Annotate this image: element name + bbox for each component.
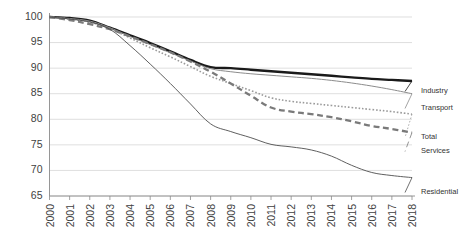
x-axis-tick-label: 2008 <box>205 204 217 228</box>
legend-leader-residential <box>405 178 412 193</box>
y-axis-tick-label: 75 <box>31 138 43 150</box>
x-axis-tick-label: 2017 <box>386 204 398 228</box>
legend-label-total: Total <box>421 132 437 141</box>
legend-leader-transport <box>405 94 412 109</box>
y-axis-tick-label: 100 <box>25 10 43 22</box>
x-axis-tick-label: 2001 <box>64 204 76 228</box>
x-axis-tick-label: 2018 <box>406 204 418 228</box>
series-line-total <box>50 17 413 114</box>
series-line-services <box>50 17 413 133</box>
y-axis-tick-label: 95 <box>31 35 43 47</box>
y-axis-tick-label: 65 <box>31 189 43 201</box>
y-axis-tick-label: 90 <box>31 61 43 73</box>
legend-label-residential: Residential <box>421 187 458 196</box>
series-line-residential <box>50 17 413 178</box>
legend-leader-industry <box>405 81 412 92</box>
y-axis-tick-label: 80 <box>31 112 43 124</box>
legend-label-transport: Transport <box>421 103 454 112</box>
legend-group: IndustryTransportTotalServicesResidentia… <box>421 86 458 196</box>
x-axis-tick-label: 2016 <box>366 204 378 228</box>
y-axis-tick-label: 85 <box>31 86 43 98</box>
line-chart: 65707580859095100 2000200120022003200420… <box>0 0 466 252</box>
legend-leader-services <box>405 133 412 152</box>
x-axis-tick-label: 2003 <box>104 204 116 228</box>
gridlines-group <box>50 17 413 196</box>
x-axis-tick-label: 2009 <box>225 204 237 228</box>
x-axis-tick-label: 2004 <box>124 204 136 228</box>
chart-canvas: 65707580859095100 2000200120022003200420… <box>0 0 466 252</box>
legend-label-services: Services <box>421 146 450 155</box>
x-axis-tick-label: 2005 <box>144 204 156 228</box>
x-axis-tick-label: 2006 <box>164 204 176 228</box>
x-axis-tick-label: 2011 <box>265 204 277 227</box>
x-axis-tick-label: 2015 <box>346 204 358 228</box>
x-axis-tick-label: 2007 <box>184 204 196 228</box>
legend-leader-total <box>405 114 412 137</box>
x-axis-tick-label: 2012 <box>285 204 297 228</box>
legend-label-industry: Industry <box>421 86 448 95</box>
x-axis-tick-label: 2010 <box>245 204 257 228</box>
x-axis-tick-label: 2002 <box>84 204 96 228</box>
x-axis-group: 2000200120022003200420052006200720082009… <box>44 196 419 227</box>
x-axis-tick-label: 2000 <box>44 204 56 228</box>
y-axis-tick-label: 70 <box>31 163 43 175</box>
x-axis-tick-label: 2013 <box>305 204 317 228</box>
x-axis-tick-label: 2014 <box>325 204 337 228</box>
y-axis-group: 65707580859095100 <box>25 10 50 201</box>
series-group <box>50 17 413 193</box>
